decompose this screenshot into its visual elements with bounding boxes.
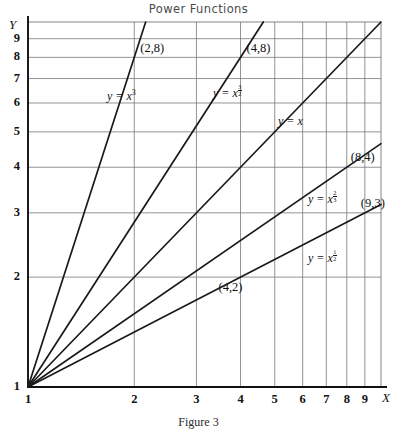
y-tick-7: 7 xyxy=(3,71,20,86)
point-label-9-3: (9,3) xyxy=(361,196,385,211)
curve-label-x-two-thirds: y = x23 xyxy=(308,192,337,207)
curve-4 xyxy=(28,205,381,388)
y-tick-4: 4 xyxy=(3,159,20,174)
y-tick-3: 3 xyxy=(3,205,20,220)
x-axis-name: X xyxy=(382,390,390,406)
y-tick-6: 6 xyxy=(3,95,20,110)
x-tick-8: 8 xyxy=(339,392,355,407)
point-label-8-4: (8,4) xyxy=(351,150,375,165)
x-tick-6: 6 xyxy=(295,392,311,407)
x-tick-1: 1 xyxy=(20,392,36,407)
log-log-plot xyxy=(0,0,397,434)
point-label-2-8: (2,8) xyxy=(140,41,164,56)
curve-label-x-one-half: y = x12 xyxy=(308,251,337,266)
y-tick-2: 2 xyxy=(3,269,20,284)
point-label-4-2: (4,2) xyxy=(219,280,243,295)
y-tick-5: 5 xyxy=(3,124,20,139)
x-tick-4: 4 xyxy=(233,392,249,407)
x-tick-3: 3 xyxy=(188,392,204,407)
figure-caption: Figure 3 xyxy=(0,415,397,430)
point-label-4-8: (4,8) xyxy=(247,41,271,56)
curve-label-x-linear: y = x xyxy=(278,114,303,129)
x-tick-2: 2 xyxy=(126,392,142,407)
y-tick-1: 1 xyxy=(3,379,20,394)
curve-0 xyxy=(28,22,146,387)
y-tick-8: 8 xyxy=(3,49,20,64)
curve-1 xyxy=(28,22,263,387)
curve-label-x-cubed: y = x3 xyxy=(107,88,136,104)
x-tick-5: 5 xyxy=(267,392,283,407)
curve-label-x-three-halves: y = x32 xyxy=(213,86,242,101)
y-tick-9: 9 xyxy=(3,31,20,46)
figure-root: Power Functions Y X 123456789123456789 (… xyxy=(0,0,397,434)
x-tick-7: 7 xyxy=(318,392,334,407)
x-tick-9: 9 xyxy=(357,392,373,407)
